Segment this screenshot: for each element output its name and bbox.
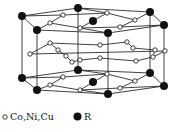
tm-atom bbox=[131, 46, 135, 50]
r-atom-center bbox=[89, 17, 97, 25]
tm-atom bbox=[56, 48, 60, 52]
tm-atom bbox=[105, 11, 109, 15]
tm-atom bbox=[64, 54, 68, 58]
r-atom bbox=[104, 90, 112, 98]
tm-atom bbox=[163, 49, 167, 53]
tm-atom bbox=[28, 52, 32, 56]
crystal-structure-diagram bbox=[0, 0, 177, 108]
tm-atom bbox=[125, 40, 129, 44]
legend-item-rare-earth: R bbox=[73, 111, 91, 122]
tm-atom bbox=[105, 72, 109, 76]
r-atom bbox=[160, 82, 168, 90]
r-atom bbox=[146, 8, 154, 16]
r-atom bbox=[33, 86, 41, 94]
tm-atom bbox=[98, 56, 102, 60]
r-atom bbox=[160, 21, 168, 29]
r-atom bbox=[18, 74, 26, 82]
legend-label-rare-earth: R bbox=[84, 111, 91, 122]
r-atom bbox=[74, 4, 82, 12]
legend-item-transition-metal: Co,Ni,Cu bbox=[2, 111, 54, 122]
tm-atom bbox=[48, 21, 52, 25]
tm-atom bbox=[134, 59, 138, 63]
tm-atom bbox=[153, 48, 157, 52]
r-atom bbox=[74, 66, 82, 74]
r-atom bbox=[104, 29, 112, 37]
tm-atom bbox=[118, 86, 122, 90]
tm-atom bbox=[70, 60, 74, 64]
r-atom bbox=[33, 26, 41, 34]
tm-atom bbox=[133, 18, 137, 22]
tm-atom bbox=[61, 75, 65, 79]
tm-atom bbox=[98, 43, 102, 47]
legend: Co,Ni,Cu R bbox=[2, 111, 177, 125]
filled-circle-icon bbox=[73, 112, 82, 121]
tm-atom bbox=[48, 83, 52, 87]
r-atom bbox=[146, 69, 154, 77]
tm-atom bbox=[151, 55, 155, 59]
tm-atom bbox=[78, 26, 82, 30]
r-atom bbox=[18, 12, 26, 20]
tm-atom bbox=[118, 25, 122, 29]
tm-atom bbox=[133, 79, 137, 83]
atoms bbox=[18, 4, 168, 98]
tm-atom bbox=[78, 88, 82, 92]
r-atom-center bbox=[89, 78, 97, 86]
tm-atom bbox=[48, 41, 52, 45]
tm-atom bbox=[78, 58, 82, 62]
tm-atom bbox=[61, 13, 65, 17]
open-circle-icon bbox=[2, 114, 8, 120]
legend-label-transition-metal: Co,Ni,Cu bbox=[10, 111, 54, 122]
